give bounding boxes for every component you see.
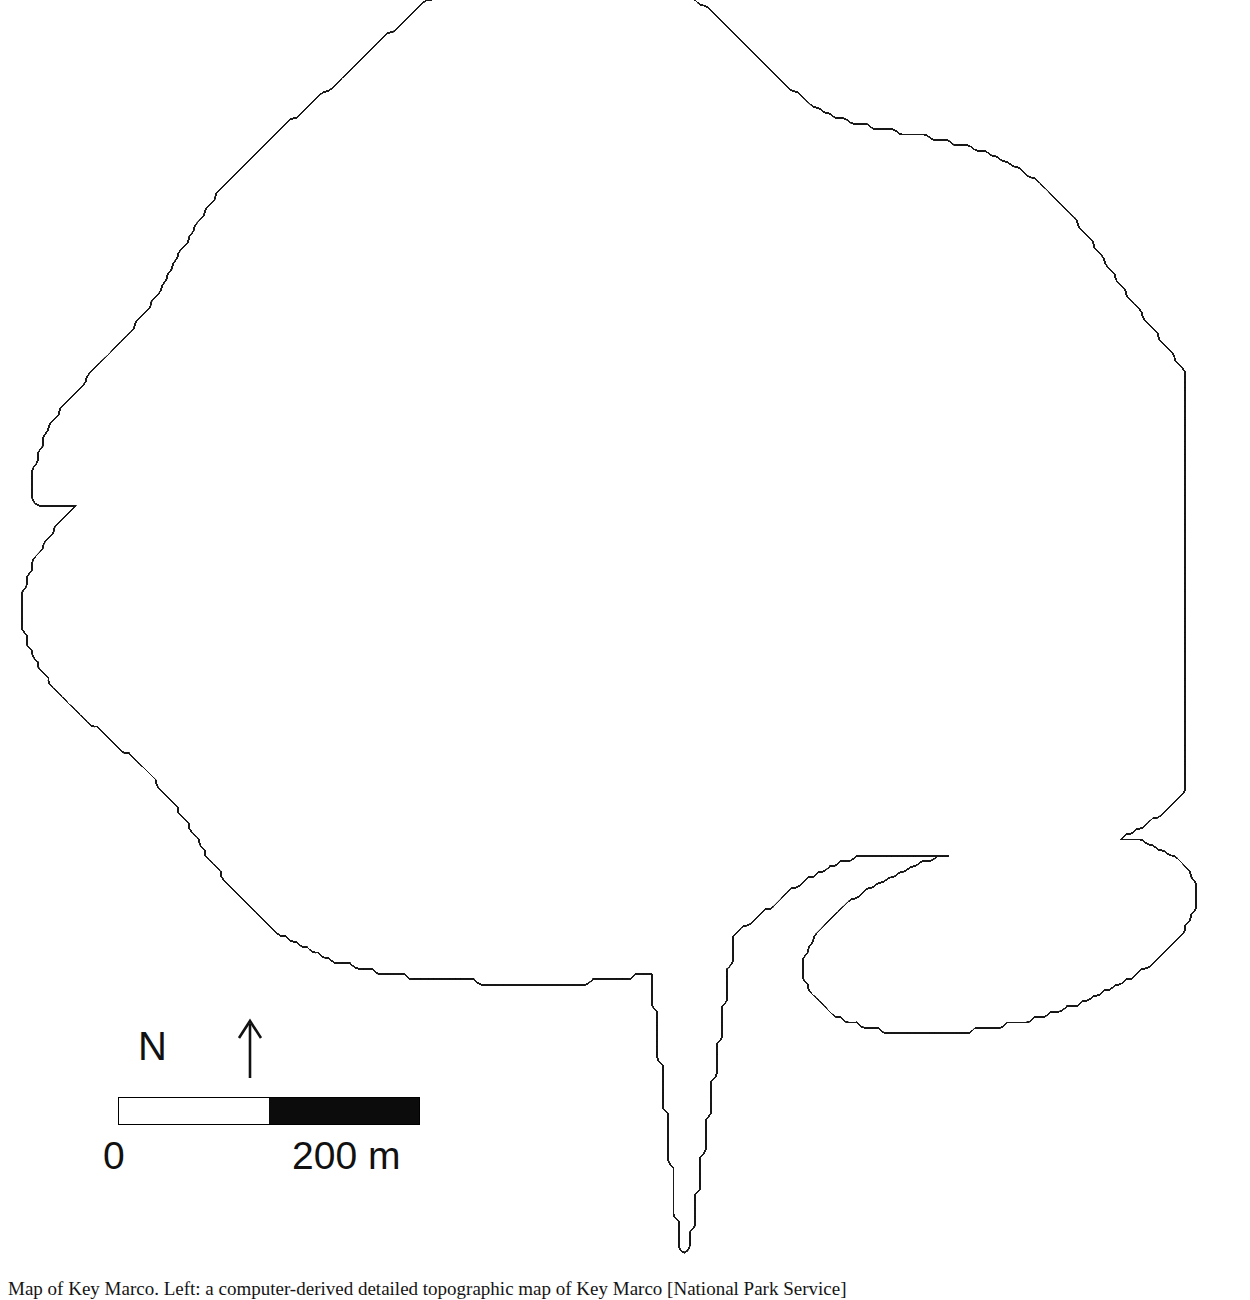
scale-bar-labels: 0 200 m <box>100 1134 520 1180</box>
scale-min-label: 0 <box>103 1134 125 1178</box>
scale-bar-segment-dark <box>269 1098 419 1124</box>
north-label: N <box>138 1024 167 1068</box>
figure-caption: Map of Key Marco. Left: a computer-deriv… <box>8 1278 1242 1300</box>
north-arrow-icon <box>232 1016 322 1082</box>
map-legend: N 0 200 m <box>100 1008 520 1193</box>
scale-bar-segment-light <box>119 1098 269 1124</box>
scale-max-label: 200 m <box>292 1134 400 1178</box>
scale-bar <box>118 1097 420 1125</box>
